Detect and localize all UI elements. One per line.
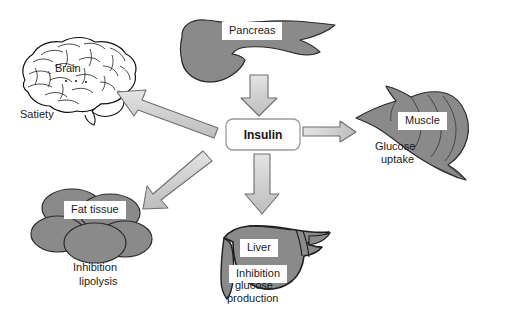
satiety-label: Satiety bbox=[20, 108, 54, 121]
arrow-insulin-to-liver bbox=[245, 154, 279, 214]
inhibition-lipolysis-line1: Inhibition bbox=[73, 261, 117, 274]
muscle-label: Muscle bbox=[398, 112, 447, 130]
arrow-insulin-to-fat bbox=[143, 151, 212, 209]
inhibition-glucose-line2: glucose bbox=[235, 279, 273, 292]
liver-label: Liver bbox=[240, 239, 278, 257]
arrow-insulin-to-brain bbox=[117, 90, 218, 138]
pancreas-label: Pancreas bbox=[222, 22, 282, 40]
brain-label: Brain bbox=[55, 62, 81, 75]
glucose-uptake-line1: Glucose bbox=[375, 140, 415, 153]
insulin-label: Insulin bbox=[226, 128, 300, 142]
insulin-action-diagram: Insulin Pancreas Brain Satiety Muscle Gl… bbox=[0, 0, 510, 323]
arrow-pancreas-to-insulin bbox=[241, 75, 277, 116]
inhibition-lipolysis-line2: lipolysis bbox=[79, 275, 118, 288]
inhibition-glucose-line3: production bbox=[227, 292, 278, 305]
fat-tissue-label: Fat tissue bbox=[64, 201, 126, 219]
glucose-uptake-line2: uptake bbox=[381, 153, 414, 166]
arrow-insulin-to-muscle bbox=[303, 121, 356, 142]
